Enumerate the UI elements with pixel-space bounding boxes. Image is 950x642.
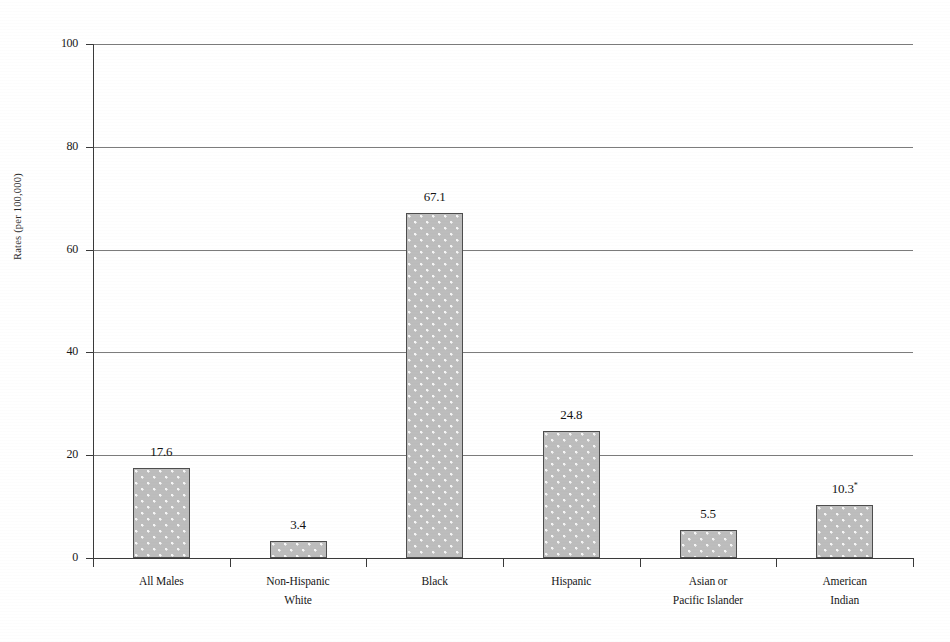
bar-chart-figure: Rates (per 100,000) 020406080100 17.63.4… [0, 0, 950, 642]
x-tick-mark-0 [93, 558, 94, 567]
y-tick-mark-0 [86, 558, 93, 559]
y-tick-label-60: 60 [34, 242, 78, 257]
y-tick-mark-80 [86, 147, 93, 148]
bar-0 [133, 468, 190, 558]
bar-value-label-5: 10.3* [795, 481, 895, 497]
x-tick-mark-3 [503, 558, 504, 567]
x-category-label-5: AmericanIndian [770, 572, 919, 610]
bar-1 [270, 541, 327, 558]
bar-value-label-4: 5.5 [658, 506, 758, 522]
bar-value-label-1: 3.4 [248, 517, 348, 533]
gridline-60 [93, 250, 913, 251]
gridline-100 [93, 44, 913, 45]
gridline-20 [93, 455, 913, 456]
x-tick-mark-2 [366, 558, 367, 567]
y-tick-label-80: 80 [34, 139, 78, 154]
bar-3 [543, 431, 600, 558]
bar-value-label-0: 17.6 [111, 444, 211, 460]
y-axis-line [93, 44, 94, 558]
bar-2 [406, 213, 463, 558]
x-category-label-1: Non-HispanicWhite [224, 572, 373, 610]
x-category-label-3: Hispanic [497, 572, 646, 591]
x-tick-mark-5 [776, 558, 777, 567]
x-tick-mark-1 [230, 558, 231, 567]
gridline-40 [93, 352, 913, 353]
y-tick-mark-20 [86, 455, 93, 456]
chart-title-cropped [0, 0, 950, 12]
y-tick-label-100: 100 [34, 36, 78, 51]
y-tick-mark-60 [86, 250, 93, 251]
y-axis-title: Rates (per 100,000) [12, 60, 23, 260]
y-tick-label-40: 40 [34, 344, 78, 359]
bar-value-label-2: 67.1 [385, 189, 485, 205]
x-tick-mark-6 [913, 558, 914, 567]
x-tick-mark-4 [640, 558, 641, 567]
x-category-label-2: Black [360, 572, 509, 591]
y-tick-mark-100 [86, 44, 93, 45]
y-tick-label-20: 20 [34, 447, 78, 462]
bar-value-label-3: 24.8 [521, 407, 621, 423]
gridline-80 [93, 147, 913, 148]
plot-area: 020406080100 17.63.467.124.85.510.3* All… [93, 44, 913, 558]
x-category-label-0: All Males [87, 572, 236, 591]
y-tick-label-0: 0 [34, 550, 78, 565]
y-tick-mark-40 [86, 352, 93, 353]
bar-5 [816, 505, 873, 558]
x-category-label-4: Asian orPacific Islander [634, 572, 783, 610]
bar-4 [680, 530, 737, 558]
